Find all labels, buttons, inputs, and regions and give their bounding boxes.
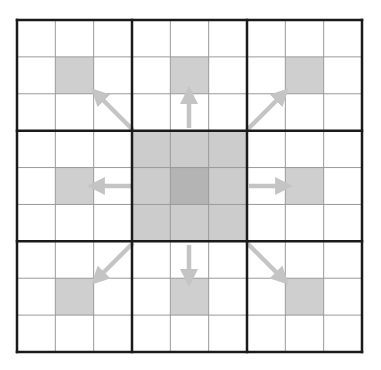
highlighted-cell [285, 278, 323, 315]
arrow-up-right-icon [247, 94, 283, 130]
highlighted-cell [55, 278, 93, 315]
arrow-down-left-icon [97, 243, 133, 279]
arrow-down-right-icon [247, 243, 283, 279]
highlighted-cell [170, 57, 208, 94]
highlighted-cell [170, 278, 208, 315]
highlighted-cell [55, 57, 93, 94]
center-cell [170, 168, 208, 205]
highlighted-cell [285, 168, 323, 205]
highlighted-cell [285, 57, 323, 94]
sudoku-neighborhood-diagram [0, 0, 381, 370]
arrow-up-left-icon [97, 94, 133, 130]
highlighted-cell [55, 168, 93, 205]
